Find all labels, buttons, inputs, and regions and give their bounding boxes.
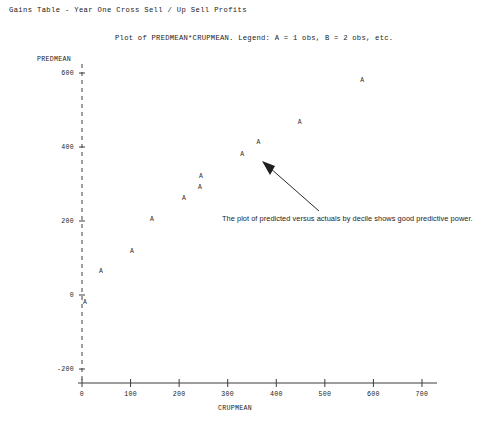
y-axis [79,64,85,383]
annotation-text: The plot of predicted versus actuals by … [222,214,473,223]
x-axis [78,379,437,387]
annotation-arrow-shaft [270,168,319,211]
scatter-plot: PREDMEAN CRUPMEAN 6004002000-200 0100200… [0,0,484,432]
y-axis-ticks [79,73,85,369]
annotation-arrow-head [262,161,275,175]
annotation-arrow [262,161,319,211]
